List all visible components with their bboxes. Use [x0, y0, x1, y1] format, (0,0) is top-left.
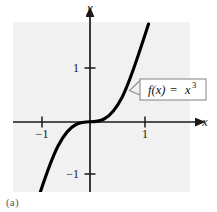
annotation-exponent-label: 3 — [192, 80, 196, 90]
annotation-fx-label: f(x) — [148, 83, 165, 97]
annotation-base-text: x — [184, 83, 191, 97]
y-tick-label-neg1: −1 — [66, 167, 79, 181]
y-tick-label-pos1-text: 1 — [73, 61, 79, 75]
plot-background — [13, 22, 190, 192]
x-tick-label-pos1: 1 — [142, 127, 148, 141]
y-axis-label: y — [86, 1, 93, 15]
figure-caption: (a) — [6, 197, 19, 210]
y-tick-label-neg1-text: −1 — [66, 167, 79, 181]
x-axis-label-text: x — [201, 115, 208, 129]
y-tick-label-pos1: 1 — [73, 61, 79, 75]
annotation-equals-text: = — [170, 83, 177, 97]
x-tick-label-pos1-text: 1 — [142, 127, 148, 141]
function-graph-figure: f(x) = x 3 −1 1 1 −1 x y — [0, 0, 217, 212]
x-axis-label: x — [201, 115, 208, 129]
annotation-exponent-text: 3 — [192, 80, 196, 90]
annotation-base-label: x — [184, 83, 191, 97]
annotation-fx-text: f(x) — [148, 83, 165, 97]
y-axis-label-text: y — [86, 1, 93, 15]
annotation-equals-label: = — [170, 83, 177, 97]
x-tick-label-neg1: −1 — [36, 127, 49, 141]
x-tick-label-neg1-text: −1 — [36, 127, 49, 141]
